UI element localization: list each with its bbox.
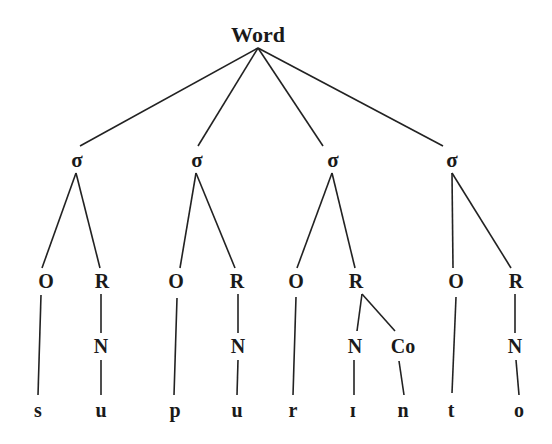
syllable-tree-edges bbox=[0, 0, 552, 444]
tree-edge bbox=[42, 173, 76, 268]
constituent-node-n3: N bbox=[348, 336, 362, 356]
tree-edge bbox=[516, 360, 519, 395]
tree-edge bbox=[196, 173, 235, 268]
constituent-node-o1: O bbox=[38, 271, 54, 291]
tree-edge bbox=[357, 294, 362, 331]
constituent-node-co3: Co bbox=[391, 336, 415, 356]
segment-leaf-l2: u bbox=[95, 400, 106, 420]
constituent-node-r4: R bbox=[509, 271, 523, 291]
tree-edge bbox=[297, 173, 332, 268]
tree-edge bbox=[174, 298, 177, 395]
constituent-node-o2: O bbox=[168, 271, 184, 291]
syllable-node-s1: σ bbox=[71, 150, 82, 171]
tree-edge bbox=[258, 48, 443, 146]
segment-leaf-l9: o bbox=[514, 400, 524, 420]
segment-leaf-l1: s bbox=[34, 400, 42, 420]
tree-edge bbox=[180, 173, 196, 268]
tree-edge bbox=[76, 173, 100, 268]
syllable-node-s4: σ bbox=[446, 150, 457, 171]
segment-leaf-l3: p bbox=[169, 400, 180, 420]
segment-leaf-l6: ɪ bbox=[350, 400, 356, 420]
constituent-node-n1: N bbox=[94, 336, 108, 356]
tree-edge bbox=[258, 48, 323, 146]
tree-edge bbox=[332, 173, 355, 268]
constituent-node-n4: N bbox=[508, 336, 522, 356]
constituent-node-o4: O bbox=[448, 271, 464, 291]
constituent-node-n2: N bbox=[231, 336, 245, 356]
segment-leaf-l8: t bbox=[448, 400, 455, 420]
syllable-node-s3: σ bbox=[327, 150, 338, 171]
tree-edge bbox=[198, 48, 258, 146]
tree-edge bbox=[293, 297, 296, 395]
root-node-word: Word bbox=[231, 24, 285, 46]
tree-edge bbox=[237, 360, 238, 395]
segment-leaf-l4: u bbox=[231, 400, 242, 420]
constituent-node-r2: R bbox=[230, 271, 244, 291]
tree-edge bbox=[38, 295, 41, 395]
constituent-node-r3: R bbox=[349, 271, 363, 291]
constituent-node-o3: O bbox=[288, 271, 304, 291]
tree-edge bbox=[362, 294, 395, 331]
tree-edge bbox=[452, 173, 511, 268]
tree-edge bbox=[399, 361, 404, 395]
tree-edge bbox=[452, 297, 456, 393]
syllable-node-s2: σ bbox=[191, 150, 202, 171]
tree-edge bbox=[80, 48, 258, 146]
tree-edge bbox=[452, 173, 453, 268]
constituent-node-r1: R bbox=[95, 271, 109, 291]
segment-leaf-l7: n bbox=[397, 400, 408, 420]
segment-leaf-l5: r bbox=[289, 400, 298, 420]
